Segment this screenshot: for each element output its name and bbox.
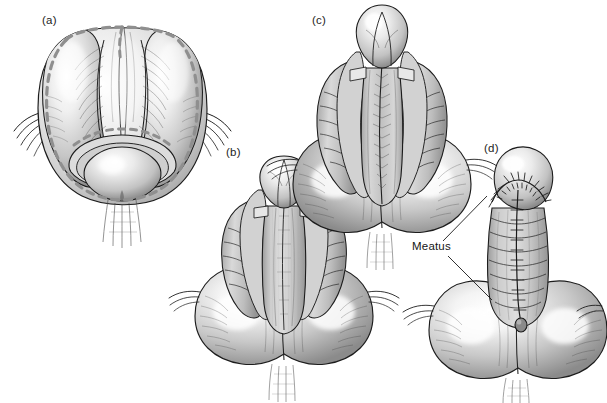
panel-label-c: (c) [312, 14, 326, 26]
panel-d-meatus-opening [515, 318, 527, 332]
surgical-illustration-plate: Meatus (a) (b) (c) (d) [0, 0, 607, 403]
panel-b-left-tab [254, 206, 268, 218]
panel-label-b: (b) [226, 146, 241, 158]
panel-d-glans-highlight [502, 156, 524, 172]
panel-d-scrotum-highlight-right [541, 308, 589, 344]
panel-d-glans [494, 147, 553, 210]
figure-root: Meatus (a) (b) (c) (d) [0, 0, 607, 403]
panel-c-urethral-plate [361, 68, 402, 206]
panel-label-a: (a) [42, 14, 57, 26]
meatus-label: Meatus [412, 240, 451, 252]
panel-a-glans-highlight [99, 156, 125, 174]
panel-d-scrotum-highlight-left [447, 308, 495, 344]
clipped-caption-strip [0, 389, 607, 403]
panel-label-d: (d) [484, 142, 499, 154]
panel-d-meatus-highlight [517, 319, 522, 324]
panel-b-shaft-texture [268, 208, 300, 332]
